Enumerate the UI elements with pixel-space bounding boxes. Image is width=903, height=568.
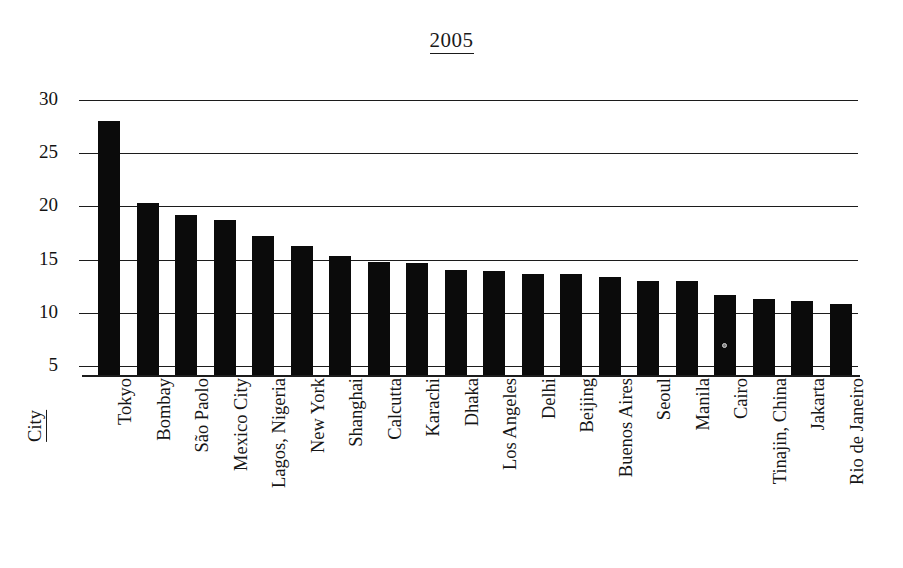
bar-rio-de-janeiro xyxy=(830,304,852,375)
x-tick-label-seoul: Seoul xyxy=(655,378,674,420)
bar-s-o-paolo xyxy=(175,215,197,375)
x-tick-label-mexico-city: Mexico City xyxy=(232,378,251,471)
y-axis: 30252015105 xyxy=(0,0,88,568)
y-tick-label-5: 5 xyxy=(14,355,58,374)
x-tick-label-new-york: New York xyxy=(309,378,328,453)
bar-buenos-aires xyxy=(599,277,621,375)
x-tick-label-manila: Manila xyxy=(694,378,713,430)
bar-tinajin-china xyxy=(753,299,775,375)
x-tick-label-cairo: Cairo xyxy=(732,378,751,419)
y-tick-label-30: 30 xyxy=(14,89,58,108)
bar-calcutta xyxy=(368,262,390,375)
scan-artifact-speck xyxy=(722,343,727,348)
bar-shanghai xyxy=(329,256,351,375)
y-tick-mark-30 xyxy=(79,100,88,101)
y-tick-mark-25 xyxy=(79,153,88,154)
bar-karachi xyxy=(406,263,428,375)
y-tick-mark-20 xyxy=(79,206,88,207)
bars-layer xyxy=(88,100,858,375)
chart-title-text: 2005 xyxy=(430,28,474,54)
x-tick-label-jakarta: Jakarta xyxy=(809,378,828,430)
x-axis-title: City xyxy=(26,410,54,470)
bar-dhaka xyxy=(445,270,467,375)
y-tick-mark-10 xyxy=(79,313,88,314)
x-tick-label-shanghai: Shanghai xyxy=(347,378,366,447)
x-axis-title-text: City xyxy=(26,410,47,442)
x-tick-label-delhi: Delhi xyxy=(540,378,559,419)
bar-cairo xyxy=(714,295,736,375)
bar-lagos-nigeria xyxy=(252,236,274,375)
bar-jakarta xyxy=(791,301,813,375)
y-tick-label-25: 25 xyxy=(14,142,58,161)
chart-title: 2005 xyxy=(0,28,903,53)
x-tick-label-tokyo: Tokyo xyxy=(116,378,135,425)
x-axis-tick-labels: TokyoBombaySão PaoloMexico CityLagos, Ni… xyxy=(88,378,858,568)
y-tick-mark-15 xyxy=(79,260,88,261)
bar-manila xyxy=(676,281,698,375)
x-tick-label-los-angeles: Los Angeles xyxy=(501,378,520,470)
x-tick-label-karachi: Karachi xyxy=(424,378,443,437)
x-tick-label-tinajin-china: Tinajin, China xyxy=(771,378,790,484)
bar-new-york xyxy=(291,246,313,375)
y-tick-label-20: 20 xyxy=(14,195,58,214)
bar-delhi xyxy=(522,274,544,375)
bar-los-angeles xyxy=(483,271,505,375)
y-tick-label-15: 15 xyxy=(14,249,58,268)
x-tick-label-lagos-nigeria: Lagos, Nigeria xyxy=(270,378,289,488)
y-tick-mark-5 xyxy=(79,366,88,367)
chart-figure: 2005 30252015105 TokyoBombaySão PaoloMex… xyxy=(0,0,903,568)
x-tick-label-bombay: Bombay xyxy=(155,378,174,441)
y-tick-label-10: 10 xyxy=(14,302,58,321)
x-tick-label-rio-de-janeiro: Rio de Janeiro xyxy=(848,378,867,485)
x-tick-label-beijing: Beijing xyxy=(578,378,597,432)
bar-beijing xyxy=(560,274,582,375)
x-tick-label-calcutta: Calcutta xyxy=(386,378,405,440)
x-tick-label-dhaka: Dhaka xyxy=(463,378,482,426)
bar-mexico-city xyxy=(214,220,236,375)
bar-seoul xyxy=(637,281,659,375)
x-tick-label-buenos-aires: Buenos Aires xyxy=(617,378,636,477)
x-tick-label-s-o-paolo: São Paolo xyxy=(193,378,212,453)
bar-bombay xyxy=(137,203,159,375)
x-axis-baseline xyxy=(82,375,860,377)
bar-tokyo xyxy=(98,121,120,375)
